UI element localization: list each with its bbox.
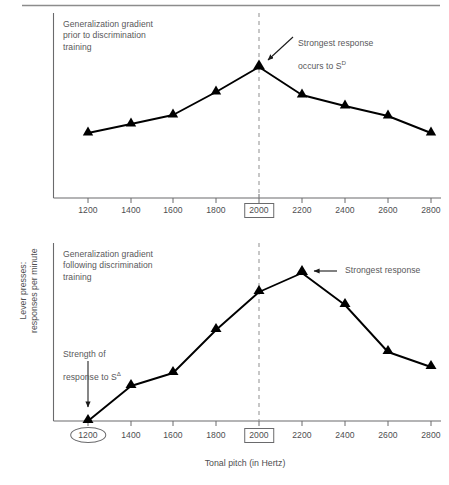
tick-label-top-2800: 2800 xyxy=(421,205,441,215)
tick-label-top-2600: 2600 xyxy=(378,205,398,215)
x-ticks-bottom xyxy=(88,421,431,426)
tick-label-bottom-1600: 1600 xyxy=(163,430,183,440)
tick-label-top-2400: 2400 xyxy=(335,205,355,215)
y-axis-label: Lever presses: responses per minute xyxy=(18,248,40,333)
panel-top-callout: Strongest response occurs to SD xyxy=(298,27,373,73)
data-markers-bottom xyxy=(83,265,437,423)
panel-top-caption: Generalization gradient prior to discrim… xyxy=(63,19,153,53)
tick-label-bottom-1200-ovaled: 1200 xyxy=(70,427,106,443)
tick-label-top-1200: 1200 xyxy=(78,205,98,215)
tick-label-top-1600: 1600 xyxy=(163,205,183,215)
x-axis-label: Tonal pitch (in Hertz) xyxy=(205,458,286,468)
panel-bottom-callout-left-line2: response to S xyxy=(63,372,117,382)
panel-bottom-caption: Generalization gradient following discri… xyxy=(63,249,153,283)
panel-top-callout-line2: occurs to S xyxy=(298,61,342,71)
panel-top-callout-line1: Strongest response xyxy=(298,38,373,48)
generalization-gradient-figure: Lever presses: responses per minute Gene… xyxy=(0,0,449,485)
tick-label-bottom-1800: 1800 xyxy=(206,430,226,440)
panel-bottom-callout-left: Strength of response to SΔ xyxy=(63,338,121,384)
s-delta-superscript: Δ xyxy=(117,370,121,377)
tick-label-top-2000-boxed: 2000 xyxy=(244,203,274,218)
tick-label-top-1800: 1800 xyxy=(206,205,226,215)
tick-label-bottom-2000-boxed: 2000 xyxy=(244,428,274,443)
tick-label-bottom-1400: 1400 xyxy=(121,430,141,440)
tick-label-top-2200: 2200 xyxy=(292,205,312,215)
tick-label-bottom-2800: 2800 xyxy=(421,430,441,440)
tick-label-bottom-2400: 2400 xyxy=(335,430,355,440)
data-line-top xyxy=(88,67,431,133)
tick-label-bottom-2600: 2600 xyxy=(378,430,398,440)
panel-bottom-callout-left-line1: Strength of xyxy=(63,349,106,359)
panel-bottom-callout-right: Strongest response xyxy=(345,265,420,276)
chart-canvas xyxy=(0,0,449,485)
callout-arrow-top xyxy=(268,37,293,60)
sd-superscript: D xyxy=(342,59,347,66)
tick-label-top-1400: 1400 xyxy=(121,205,141,215)
tick-label-bottom-2200: 2200 xyxy=(292,430,312,440)
